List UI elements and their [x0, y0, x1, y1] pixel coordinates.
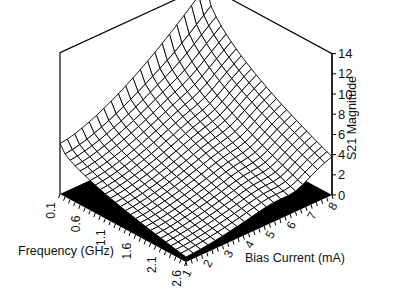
y-axis-label: Bias Current (mA): [245, 251, 345, 265]
svg-text:4: 4: [242, 238, 258, 251]
svg-text:6: 6: [283, 219, 299, 232]
x-axis-label: Frequency (GHz): [18, 244, 114, 258]
svg-text:3: 3: [221, 247, 237, 260]
svg-text:5: 5: [263, 228, 279, 241]
z-axis-label: S21 Magnitude: [345, 76, 359, 160]
svg-text:0.1: 0.1: [44, 202, 58, 219]
svg-text:2: 2: [200, 257, 216, 270]
svg-text:0.6: 0.6: [69, 215, 83, 232]
svg-text:7: 7: [304, 209, 320, 222]
svg-text:1.6: 1.6: [120, 242, 134, 259]
svg-text:2: 2: [338, 167, 345, 182]
surface-mesh: [60, 0, 332, 257]
svg-text:0: 0: [338, 188, 345, 203]
svg-text:14: 14: [338, 46, 352, 61]
svg-text:2.1: 2.1: [145, 256, 159, 273]
